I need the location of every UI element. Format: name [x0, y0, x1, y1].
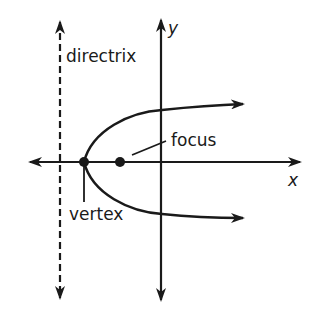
vertex-label: vertex [69, 204, 123, 224]
focus-point [115, 157, 125, 167]
focus-label: focus [171, 130, 217, 150]
parabola-upper-arm [84, 104, 243, 162]
parabola-diagram: directrix focus vertex x y [0, 0, 318, 328]
x-axis-label: x [287, 170, 299, 190]
y-axis-label: y [167, 18, 179, 38]
directrix-label: directrix [66, 46, 136, 66]
